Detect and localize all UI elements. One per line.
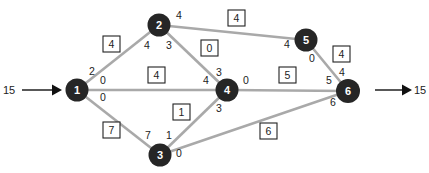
svg-text:4: 4 [234, 12, 240, 24]
label-4-6-at-6: 5 [326, 74, 332, 86]
svg-text:6: 6 [266, 125, 272, 137]
label-4-6-at-4: 0 [243, 74, 249, 86]
node-3: 3 [149, 144, 172, 167]
svg-text:1: 1 [179, 106, 185, 118]
label-1-3-at-1: 0 [100, 91, 106, 103]
flow-box-1-2: 4 [103, 36, 120, 52]
flow-box-5-6: 4 [333, 46, 350, 62]
label-1-2-at-1: 2 [89, 65, 95, 77]
flow-box-1-3: 7 [103, 122, 120, 138]
svg-text:5: 5 [285, 69, 291, 81]
label-3-6-at-3: 0 [176, 147, 182, 159]
sink-demand-label: 15 [414, 84, 426, 96]
svg-text:0: 0 [207, 42, 213, 54]
node-4: 4 [216, 79, 239, 102]
svg-text:4: 4 [339, 48, 345, 60]
label-1-4-at-1: 0 [100, 74, 106, 86]
edge-2-4 [159, 25, 227, 90]
svg-text:7: 7 [109, 124, 115, 136]
label-3-4-at-4: 3 [216, 102, 222, 114]
label-3-4-at-3: 1 [166, 129, 172, 141]
label-1-2-at-2: 4 [144, 39, 150, 51]
svg-text:4: 4 [109, 38, 115, 50]
node-6: 6 [336, 79, 360, 103]
label-2-5-at-5: 4 [284, 38, 290, 50]
label-1-3-at-3: 7 [145, 129, 151, 141]
node-5: 5 [295, 29, 318, 52]
label-5-6-at-6: 4 [339, 66, 345, 78]
flow-box-4-6: 5 [279, 67, 296, 83]
network-flow-diagram: 15 15 4 4 7 4 0 1 5 4 6 2 [0, 0, 429, 173]
node-2: 2 [148, 14, 171, 37]
svg-text:4: 4 [224, 84, 231, 96]
flow-box-2-4: 0 [201, 40, 218, 56]
svg-text:1: 1 [74, 84, 80, 96]
source-supply-label: 15 [3, 84, 15, 96]
flow-box-1-4: 4 [148, 67, 165, 83]
label-2-4-at-2: 3 [166, 39, 172, 51]
svg-text:2: 2 [156, 19, 162, 31]
svg-text:3: 3 [157, 149, 163, 161]
svg-text:5: 5 [303, 34, 309, 46]
source-arrow [22, 85, 62, 96]
label-1-4-at-4: 4 [203, 74, 209, 86]
svg-text:4: 4 [154, 69, 160, 81]
flow-box-3-6: 6 [260, 123, 277, 139]
label-5-6-at-5: 0 [309, 52, 315, 64]
node-1: 1 [66, 79, 89, 102]
edge-4-6 [227, 90, 348, 91]
flow-box-3-4: 1 [173, 104, 190, 120]
flow-box-2-5: 4 [228, 10, 245, 26]
label-3-6-at-6: 6 [330, 96, 336, 108]
svg-text:6: 6 [345, 85, 351, 97]
edge-1-2 [77, 25, 159, 90]
label-2-4-at-4: 3 [216, 66, 222, 78]
edge-3-4 [160, 90, 227, 155]
label-2-5-at-2: 4 [176, 9, 182, 21]
sink-arrow [375, 85, 412, 96]
edge-3-6 [160, 91, 348, 155]
